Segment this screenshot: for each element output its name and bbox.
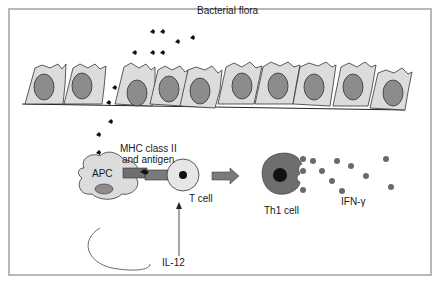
il12-loop xyxy=(88,228,150,270)
label-bacterial-flora: Bacterial flora xyxy=(197,5,258,16)
label-t-cell: T cell xyxy=(189,193,213,204)
label-mhc-line2: and antigen xyxy=(122,154,174,165)
epithelial-cells xyxy=(25,62,412,110)
ifn-gamma-dots xyxy=(300,156,394,194)
arrowhead-icon xyxy=(176,202,182,209)
diagram-canvas xyxy=(0,0,448,293)
th1-nucleus xyxy=(273,168,287,182)
label-th1-cell: Th1 cell xyxy=(264,205,299,216)
t-cell-nucleus xyxy=(179,171,187,179)
apc-nucleus xyxy=(95,184,113,194)
label-ifn-gamma: IFN-γ xyxy=(341,196,365,207)
label-mhc-line1: MHC class II xyxy=(120,143,177,154)
label-apc: APC xyxy=(92,168,113,179)
label-il12: IL-12 xyxy=(162,257,185,268)
differentiation-arrow-icon xyxy=(212,168,239,184)
